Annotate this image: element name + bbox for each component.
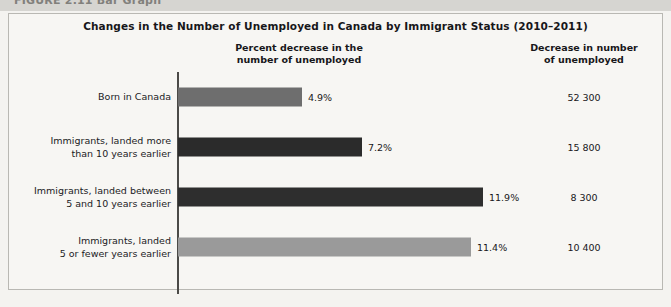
category-label-line1: Immigrants, landed more [0,135,171,148]
category-label-line1: Immigrants, landed [0,235,171,248]
table-row: Born in Canada 4.9% 52 300 [9,72,664,122]
category-label: Born in Canada [0,91,171,104]
category-label-line2: 5 and 10 years earlier [0,197,171,210]
bar-segment [178,188,483,207]
category-label-line1: Born in Canada [0,91,171,104]
plot-area: Born in Canada 4.9% 52 300 Immigrants, l… [9,14,664,291]
table-row: Immigrants, landed 5 or fewer years earl… [9,222,664,272]
category-label-line1: Immigrants, landed between [0,185,171,198]
decrease-number-value: 52 300 [509,92,659,103]
chart-panel: Changes in the Number of Unemployed in C… [8,13,663,290]
bar-value-label: 4.9% [308,92,332,103]
table-row: Immigrants, landed between 5 and 10 year… [9,172,664,222]
category-label: Immigrants, landed more than 10 years ea… [0,135,171,160]
figure-caption-text: FIGURE 2.11 Bar Graph [14,0,161,7]
bar-segment [178,138,362,157]
category-label-line2: 5 or fewer years earlier [0,247,171,260]
decrease-number-value: 10 400 [509,242,659,253]
table-row: Immigrants, landed more than 10 years ea… [9,122,664,172]
bar-segment [178,238,471,257]
figure-page: FIGURE 2.11 Bar Graph Changes in the Num… [0,0,671,307]
decrease-number-value: 15 800 [509,142,659,153]
bar-value-label: 7.2% [368,142,392,153]
category-label: Immigrants, landed 5 or fewer years earl… [0,235,171,260]
category-label-line2: than 10 years earlier [0,147,171,160]
category-label: Immigrants, landed between 5 and 10 year… [0,185,171,210]
decrease-number-value: 8 300 [509,192,659,203]
figure-caption-strip: FIGURE 2.11 Bar Graph [0,0,671,11]
bar-segment [178,88,302,107]
bar-value-label: 11.4% [477,242,507,253]
